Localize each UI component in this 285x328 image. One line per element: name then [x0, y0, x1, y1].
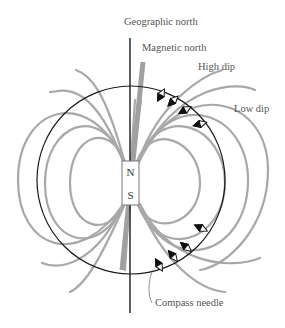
- field-lines: [18, 70, 268, 292]
- high-dip-label: High dip: [198, 62, 235, 73]
- magnet-south-label: S: [127, 189, 133, 201]
- compass-needle-icon: [192, 119, 207, 129]
- magnet-north-label: N: [127, 166, 135, 178]
- geographic-north-label: Geographic north: [124, 17, 198, 28]
- bar-magnet: N S: [122, 161, 139, 205]
- compass-needle-label: Compass needle: [155, 298, 224, 309]
- low-dip-label: Low dip: [234, 104, 269, 115]
- compass-leader-line: [149, 272, 152, 303]
- magnetic-north-label: Magnetic north: [142, 43, 206, 54]
